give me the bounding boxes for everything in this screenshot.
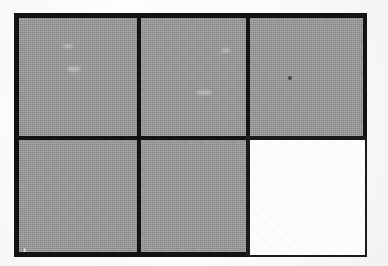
light-crescent-icon	[20, 239, 44, 257]
grid-diagram	[14, 13, 367, 257]
grid-cell-row2-col2	[137, 136, 250, 257]
paper-smudge	[221, 48, 230, 53]
paper-smudge	[67, 66, 81, 72]
paper-smudge	[196, 90, 212, 95]
figure-caption	[0, 0, 1, 1]
grid-cell-label	[19, 140, 20, 141]
grid-cell-label	[19, 18, 20, 19]
grid-cell-label	[141, 140, 142, 141]
figure-canvas	[0, 0, 388, 266]
grid-cell-row1-col1	[14, 13, 141, 140]
grid-cell-row1-col3	[246, 13, 367, 140]
grid-cell-label	[141, 18, 142, 19]
grid-cell-label	[250, 140, 251, 141]
dark-speck-icon	[288, 76, 292, 80]
grid-cell-label	[250, 18, 251, 19]
paper-smudge	[63, 44, 73, 48]
grid-cell-row1-col2	[137, 13, 250, 140]
grid-cell-row2-col1	[14, 136, 141, 257]
grid-cell-row2-col3-empty	[246, 136, 367, 257]
